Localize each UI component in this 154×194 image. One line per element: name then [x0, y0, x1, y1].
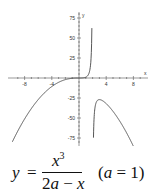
- y-tick-label: 50: [69, 35, 75, 41]
- numerator-exponent: 3: [60, 150, 65, 161]
- formula-numerator: x3: [52, 150, 65, 171]
- fraction-bar: [42, 172, 82, 173]
- formula-denominator: 2a − x: [42, 174, 85, 194]
- y-tick-label: 75: [69, 15, 75, 21]
- param-a: a: [104, 163, 113, 182]
- x-axis-name: x: [144, 70, 147, 76]
- y-tick-label: -75: [68, 135, 75, 141]
- denominator-coefficient: 2: [42, 174, 51, 193]
- denominator-a: a: [51, 174, 60, 193]
- x-tick-label: -8: [22, 81, 27, 87]
- y-axis-name: y: [82, 12, 85, 18]
- parameter-note: (a = 1): [98, 163, 144, 183]
- y-tick-label: -50: [68, 115, 75, 121]
- axes: [8, 12, 148, 146]
- formula-equals: =: [27, 163, 37, 183]
- curves: [12, 28, 133, 146]
- x-tick-label: 8: [132, 81, 135, 87]
- param-rest: = 1): [112, 163, 144, 182]
- function-plot: -8-448755025-25-50-75xy: [0, 0, 154, 150]
- denominator-minus: −: [59, 174, 77, 193]
- right-branch-curve: [93, 100, 133, 146]
- formula-lhs: y: [12, 163, 20, 183]
- denominator-x: x: [77, 174, 85, 193]
- formula-caption: y = x3 2a − x (a = 1): [0, 150, 154, 190]
- y-tick-label: 25: [69, 55, 75, 61]
- numerator-variable: x: [52, 151, 60, 170]
- y-tick-label: -25: [68, 95, 75, 101]
- x-tick-label: 4: [105, 81, 108, 87]
- tick-labels: -8-448755025-25-50-75xy: [22, 12, 147, 141]
